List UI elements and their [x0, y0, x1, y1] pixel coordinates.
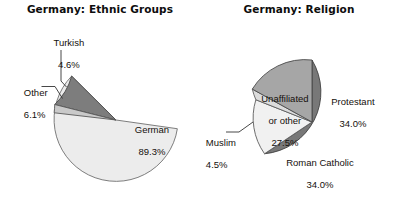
chart-panel-ethnic-groups: Germany: Ethnic Groups Turkish 4.6% Othe…	[0, 0, 200, 199]
pie-label-unaffiliated-name-line2: or other	[269, 115, 302, 126]
pie-label-muslim-value: 4.5%	[206, 159, 228, 170]
pie-label-roman-catholic-value: 34.0%	[306, 179, 333, 190]
pie-label-roman-catholic: Roman Catholic 34.0%	[267, 146, 357, 199]
pie-label-other-value: 6.1%	[24, 109, 46, 120]
pie-label-other-name: Other	[24, 87, 48, 98]
pie-label-turkish-name: Turkish	[53, 37, 84, 48]
pie-label-german-name: German	[135, 124, 169, 135]
pie-label-protestant-value: 34.0%	[339, 118, 366, 129]
pie-label-muslim-name: Muslim	[206, 137, 236, 148]
figure-two-pie-charts: Germany: Ethnic Groups Turkish 4.6% Othe…	[0, 0, 399, 199]
pie-label-protestant-name: Protestant	[331, 96, 374, 107]
pie-label-german-value: 89.3%	[138, 146, 165, 157]
pie-label-protestant: Protestant 34.0%	[312, 85, 378, 140]
pie-label-turkish: Turkish 4.6%	[24, 26, 98, 81]
pie-label-other: Other 6.1%	[8, 76, 48, 131]
pie-label-german: German 89.3%	[112, 113, 176, 168]
pie-label-muslim: Muslim 4.5%	[190, 126, 232, 181]
pie-label-turkish-value: 4.6%	[58, 59, 80, 70]
chart-panel-religion: Germany: Religion Protestant 34.0% Unaff…	[199, 0, 399, 199]
pie-label-roman-catholic-name: Roman Catholic	[286, 157, 354, 168]
pie-label-unaffiliated-name-line1: Unaffiliated	[261, 93, 308, 104]
